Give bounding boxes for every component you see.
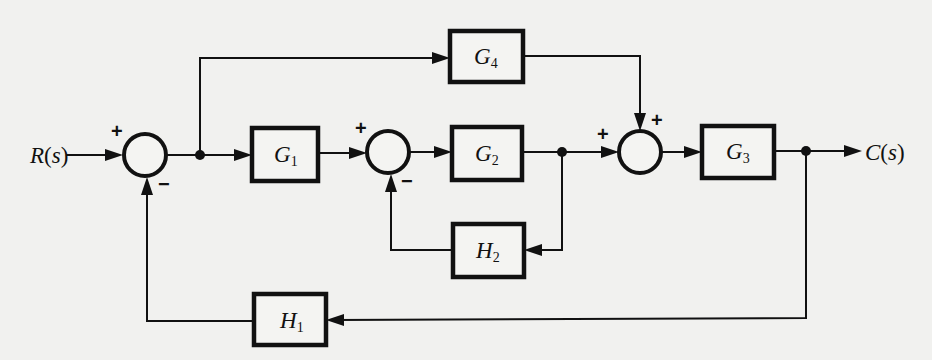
block-diagram: R(s) + − G1 + − G2 H2 <box>0 0 932 360</box>
arrowhead-icon <box>105 149 123 161</box>
summing-junction-2: + − <box>355 117 413 192</box>
sign-s3-left-plus: + <box>597 123 609 145</box>
sign-s1-plus: + <box>111 120 123 142</box>
sign-s2-plus: + <box>355 117 367 139</box>
wire-h1-to-s1 <box>147 186 254 321</box>
sign-s2-minus: − <box>401 170 413 192</box>
arrowhead-icon <box>434 146 452 158</box>
sign-s1-minus: − <box>158 173 170 195</box>
wire-g4-to-s3 <box>523 56 640 122</box>
arrowhead-icon <box>326 314 344 326</box>
arrowhead-icon <box>684 146 702 158</box>
arrowhead-icon <box>385 174 397 192</box>
wire-takeoff-b-to-h2 <box>532 152 562 250</box>
arrowhead-icon <box>141 177 153 195</box>
arrowhead-icon <box>634 113 646 131</box>
block-g1: G1 <box>252 128 318 181</box>
block-g4: G4 <box>450 31 523 82</box>
input-signal-label: R(s) <box>29 143 68 168</box>
arrowhead-icon <box>234 149 252 161</box>
summing-junction-3: + + <box>597 109 663 173</box>
arrowhead-icon <box>601 146 619 158</box>
wire-h2-to-s2 <box>391 182 453 250</box>
arrowhead-icon <box>524 244 542 256</box>
output-signal-label: C(s) <box>865 140 905 165</box>
block-h1: H1 <box>254 294 326 345</box>
block-h2: H2 <box>453 224 524 277</box>
summing-junction-1: + − <box>111 120 170 195</box>
block-g3: G3 <box>702 126 774 178</box>
arrowhead-icon <box>349 147 367 159</box>
arrowhead-icon <box>844 145 862 157</box>
sign-s3-top-plus: + <box>651 109 663 131</box>
arrowhead-icon <box>432 52 450 64</box>
block-g2: G2 <box>452 127 522 180</box>
